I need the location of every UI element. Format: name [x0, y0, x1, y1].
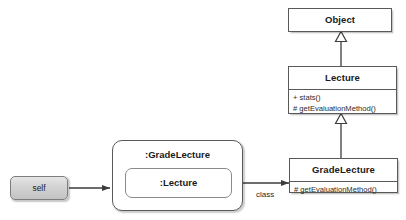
class-box-gradelecture-operations: # getEvaluationMethod() — [290, 181, 397, 200]
edge-lecture-generalizes-object — [336, 32, 347, 67]
class-box-lecture-operations: + stats() # getEvaluationMethod() — [289, 89, 396, 119]
self-node[interactable]: self — [10, 176, 68, 200]
object-node-gradelecture-label: :GradeLecture — [113, 141, 242, 160]
edge-label-class: class — [256, 191, 274, 199]
class-box-gradelecture-name: GradeLecture — [290, 159, 397, 181]
self-node-label: self — [32, 184, 45, 192]
class-box-object-name: Object — [289, 9, 391, 31]
class-operation: # getEvaluationMethod() — [294, 185, 393, 196]
object-node-lecture-label: :Lecture — [160, 178, 197, 188]
class-box-lecture[interactable]: Lecture + stats() # getEvaluationMethod(… — [288, 66, 397, 114]
class-operation: + stats() — [293, 93, 392, 104]
edge-gradelecture-generalizes-lecture — [336, 114, 347, 159]
class-box-gradelecture[interactable]: GradeLecture # getEvaluationMethod() — [289, 158, 398, 193]
object-node-lecture[interactable]: :Lecture — [125, 168, 232, 198]
class-box-lecture-name: Lecture — [289, 67, 396, 89]
class-operation: # getEvaluationMethod() — [293, 104, 392, 115]
class-box-object[interactable]: Object — [288, 8, 392, 32]
uml-diagram-canvas: class self :GradeLecture :Lecture Object… — [0, 0, 406, 220]
